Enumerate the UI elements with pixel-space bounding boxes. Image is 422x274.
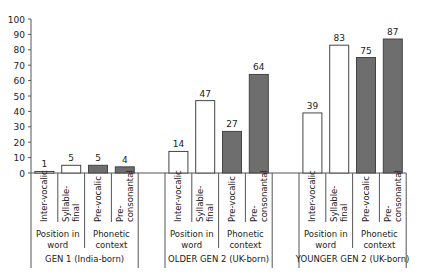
group-label: YOUNGER GEN 2 (UK-born) [295,254,410,264]
subgroup-label: Position in [36,229,80,239]
bar-value-label: 4 [122,155,128,165]
subgroup-label: word [181,240,202,250]
subgroup-label: Phonetic [361,229,398,239]
y-tick-label: 100 [8,15,25,25]
bar [169,151,188,173]
category-label: Inter-vocalic [39,170,49,222]
subgroup-label: context [95,240,128,250]
category-label: Pre- [115,205,125,222]
category-label: Pre-vocalic [227,176,237,222]
bar [383,39,402,173]
category-label: final [205,204,215,222]
bar [62,165,81,173]
bar-chart: 0102030405060708090100GEN 1 (India-born)… [0,0,422,274]
subgroup-label: word [315,240,336,250]
bar [357,58,376,174]
group-label: OLDER GEN 2 (UK-born) [168,254,269,264]
subgroup-label: context [229,240,262,250]
category-label: Pre- [383,205,393,222]
subgroup-label: Phonetic [93,229,130,239]
bar [89,165,108,173]
bar-value-label: 1 [42,159,48,169]
subgroup-label: context [363,240,396,250]
category-label: final [339,204,349,222]
category-label: Inter-vocalic [307,170,317,222]
y-tick-label: 0 [19,169,25,179]
y-tick-label: 50 [14,92,26,102]
y-tick-label: 40 [14,107,26,117]
bar [223,131,242,173]
y-tick-label: 60 [14,76,26,86]
category-label: consonantal [393,170,403,222]
category-label: Inter-vocalic [173,170,183,222]
category-label: consonantal [259,170,269,222]
bar-value-label: 64 [253,62,265,72]
subgroup-label: Phonetic [227,229,264,239]
bar [249,74,268,173]
y-tick-label: 30 [14,122,26,132]
subgroup-label: word [47,240,68,250]
category-label: Pre-vocalic [361,176,371,222]
category-label: Pre- [249,205,259,222]
subgroup-label: Position in [170,229,214,239]
bar-value-label: 75 [360,46,371,56]
bar-value-label: 5 [68,153,74,163]
bar [303,113,322,173]
category-label: consonantal [125,170,135,222]
y-tick-label: 20 [14,138,26,148]
category-label: Pre-vocalic [93,176,103,222]
bar-value-label: 14 [173,139,185,149]
category-label: Syllable- [195,186,205,222]
group-label: GEN 1 (India-born) [45,254,124,264]
category-label: Syllable- [329,186,339,222]
y-tick-label: 10 [14,153,26,163]
y-tick-label: 90 [14,30,26,40]
bar-value-label: 5 [95,153,101,163]
bar [196,101,215,173]
bar-value-label: 39 [307,101,319,111]
y-tick-label: 80 [14,45,26,55]
bar [330,45,349,173]
category-label: Syllable- [61,186,71,222]
bar-value-label: 83 [333,33,344,43]
subgroup-label: Position in [304,229,348,239]
bar-value-label: 27 [226,119,237,129]
bar-value-label: 87 [387,27,398,37]
bar-value-label: 47 [199,89,210,99]
y-tick-label: 70 [14,61,26,71]
category-label: final [71,204,81,222]
